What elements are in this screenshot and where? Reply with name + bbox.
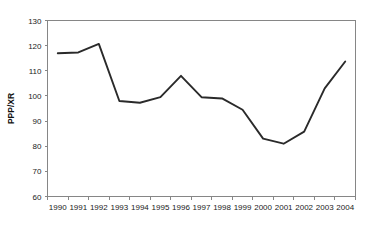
x-axis-tick-group: 1990199119921993199419951996199719981999… [48,197,356,212]
x-axis-tick-label: 1996 [172,203,190,212]
y-axis-tick-label: 100 [28,92,42,101]
x-axis-tick-label: 1995 [152,203,170,212]
x-axis-tick-label: 1994 [131,203,149,212]
chart-container: 60708090100110120130 1990199119921993199… [0,0,371,232]
x-axis-tick-label: 2001 [275,203,293,212]
x-axis-tick-label: 2002 [295,203,313,212]
data-series-line [58,44,345,144]
x-axis-tick-label: 1992 [90,203,108,212]
x-axis-tick-label: 1990 [49,203,67,212]
y-axis-title: PPP/XR [6,93,16,124]
y-axis-tick-label: 70 [33,167,42,176]
x-axis-tick-label: 1999 [234,203,252,212]
x-axis-tick-label: 2003 [316,203,334,212]
x-axis-tick-label: 2004 [336,203,354,212]
y-axis-tick-label: 60 [33,193,42,202]
y-axis-tick-label: 120 [28,42,42,51]
y-axis-tick-label: 80 [33,142,42,151]
x-axis-tick-label: 1991 [69,203,87,212]
x-axis-tick-label: 1993 [110,203,128,212]
x-axis-tick-label: 1997 [193,203,211,212]
y-axis-tick-group: 60708090100110120130 [28,17,47,202]
y-axis-tick-label: 90 [33,117,42,126]
x-axis-tick-label: 2000 [254,203,272,212]
y-axis-tick-label: 110 [29,67,42,76]
y-axis-tick-label: 130 [28,17,42,26]
x-axis-tick-label: 1998 [213,203,231,212]
line-chart: 60708090100110120130 1990199119921993199… [0,0,371,232]
